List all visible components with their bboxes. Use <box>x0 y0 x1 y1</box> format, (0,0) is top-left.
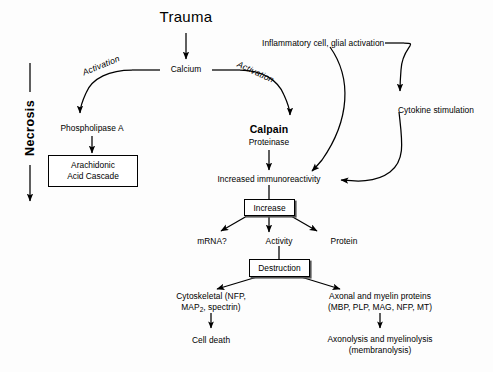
edge-destruction-to-axonal <box>301 277 340 289</box>
node-increased-immunoreactivity: Increased immunoreactivity <box>217 174 320 185</box>
node-cytoskeletal: Cytoskeletal (NFP, MAP2, spectrin) <box>176 291 246 313</box>
edge-increase-to-protein <box>291 216 317 231</box>
edge-destruction-to-cytoskeletal <box>217 277 257 289</box>
axonal-line-2: (MBP, PLP, MAG, NFP, MT) <box>328 302 432 313</box>
cytoskeletal-line-2: MAP2, spectrin) <box>176 302 246 314</box>
arachidonic-line-1: Arachidonic <box>67 160 119 171</box>
node-mrna: mRNA? <box>197 236 227 247</box>
cytoskeletal-map-subscript: 2 <box>200 306 204 313</box>
axonolysis-line-2: (membranolysis) <box>327 345 432 356</box>
node-cytokine-stimulation: Cytokine stimulation <box>398 105 474 116</box>
cytoskeletal-line-1: Cytoskeletal (NFP, <box>176 291 246 302</box>
destruction-box-label: Destruction <box>258 263 300 273</box>
node-axonolysis-myelinolysis: Axonolysis and myelinolysis (membranolys… <box>327 334 432 355</box>
edge-increase-to-mrna <box>221 216 247 231</box>
node-inflammatory-cell-glial-activation: Inflammatory cell, glial activation <box>262 38 384 49</box>
arachidonic-line-2: Acid Cascade <box>67 171 119 182</box>
flowchart-diagram: Trauma Calcium Activation Activation Pho… <box>0 0 493 372</box>
cytoskeletal-map-text: MAP <box>181 302 199 312</box>
node-necrosis-label: Necrosis <box>25 100 36 156</box>
increase-box-label: Increase <box>253 203 285 213</box>
node-activity: Activity <box>266 236 293 247</box>
node-destruction-box: Destruction <box>249 259 310 277</box>
node-calpain: Calpain <box>250 124 289 135</box>
node-phospholipase-a: Phospholipase A <box>60 123 123 134</box>
edge-inflammatory-to-immunoreactivity <box>312 47 345 171</box>
node-arachidonic-acid-cascade-box: Arachidonic Acid Cascade <box>48 155 138 187</box>
axonal-line-1: Axonal and myelin proteins <box>328 291 432 302</box>
edge-inflammatory-to-cytokine <box>400 43 411 91</box>
node-protein: Protein <box>331 236 358 247</box>
edge-cytokine-to-immunoreactivity <box>341 112 402 181</box>
node-calcium: Calcium <box>171 64 202 75</box>
cytoskeletal-spectrin-text: , spectrin) <box>203 302 240 312</box>
node-trauma: Trauma <box>160 12 213 23</box>
node-axonal-myelin-proteins: Axonal and myelin proteins (MBP, PLP, MA… <box>328 291 432 312</box>
node-cell-death: Cell death <box>192 335 230 346</box>
node-proteinase: Proteinase <box>249 137 290 148</box>
node-increase-box: Increase <box>244 199 295 216</box>
axonolysis-line-1: Axonolysis and myelinolysis <box>327 334 432 345</box>
